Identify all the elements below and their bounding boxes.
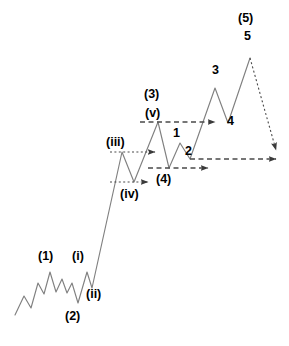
- label-minor-3: 3: [212, 64, 219, 77]
- label-wave-5: (5): [238, 12, 253, 25]
- label-wave-4: (4): [156, 173, 171, 186]
- label-wave-1: (1): [38, 250, 53, 263]
- label-minor-1: 1: [173, 127, 180, 140]
- label-minor-5: 5: [244, 30, 251, 43]
- wave-chart-canvas: [0, 0, 289, 346]
- label-minor-2: 2: [185, 145, 192, 158]
- elliott-wave-diagram: (1)(2)(i)(ii)(iii)(iv)(3)(v)(4)1234(5)5: [0, 0, 289, 346]
- label-minor-4: 4: [227, 115, 234, 128]
- label-wave-ii: (ii): [86, 288, 101, 301]
- label-wave-i: (i): [72, 250, 84, 263]
- label-wave-2: (2): [65, 310, 80, 323]
- label-wave-iv: (iv): [120, 188, 139, 201]
- label-wave-iii: (iii): [106, 136, 125, 149]
- projection-polyline: [250, 58, 276, 150]
- wave-5-projection-line: [250, 58, 276, 150]
- label-wave-3: (3): [144, 88, 159, 101]
- label-wave-v: (v): [145, 107, 160, 120]
